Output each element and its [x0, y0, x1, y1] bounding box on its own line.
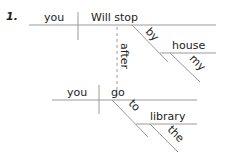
item-number: 1. [6, 10, 18, 23]
clause2-prep-object: library [150, 110, 186, 123]
clause1-verb: Will stop [91, 11, 138, 24]
connector-word: after [118, 43, 131, 70]
sentence-diagram: 1. you Will stop by house my after you g… [0, 0, 225, 158]
clause1-prep-object: house [172, 39, 205, 52]
clause1-object-modifier: my [187, 52, 209, 74]
clause1-subject: you [44, 11, 64, 24]
clause2-subject: you [67, 86, 87, 99]
clause1-prep: by [143, 25, 162, 44]
clause2-verb: go [111, 86, 125, 99]
